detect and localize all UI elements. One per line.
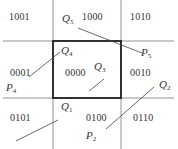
region-code-right: 0010 [130, 68, 151, 78]
region-code-top: 1000 [82, 12, 103, 22]
region-code-top-right: 1010 [130, 12, 151, 22]
point-label-p4: P4 [6, 82, 16, 97]
point-label-q3: Q3 [94, 61, 105, 76]
point-label-q5: Q5 [62, 13, 73, 28]
segment-q3 [89, 79, 104, 91]
point-label-q2: Q2 [159, 79, 170, 94]
point-label-q4: Q4 [61, 45, 72, 60]
region-code-bottom-right: 0110 [133, 113, 153, 123]
point-label-p2: P2 [86, 130, 96, 145]
region-code-center: 0000 [65, 68, 86, 78]
segment-p4-q4 [29, 52, 60, 77]
point-label-q1: Q1 [61, 101, 72, 116]
point-label-p5: P5 [141, 47, 151, 62]
region-code-left: 0001 [10, 68, 31, 78]
region-code-top-left: 1001 [9, 12, 30, 22]
region-code-bottom: 0100 [86, 113, 107, 123]
segment-q1 [16, 120, 58, 141]
region-code-bottom-left: 0101 [10, 113, 31, 123]
